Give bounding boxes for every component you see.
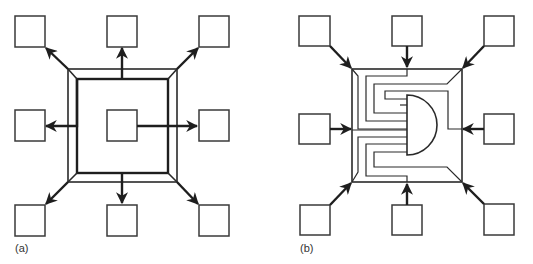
box-b-top-middle	[392, 16, 422, 46]
bevel-a-tr	[168, 69, 177, 79]
arrow-a-bottom-right	[177, 182, 198, 204]
wire-b-bottom-right	[374, 152, 462, 182]
bevel-a-bl	[68, 173, 77, 182]
box-a-top-middle	[107, 16, 137, 47]
arrow-b-bottom-left	[330, 183, 351, 205]
panel-b-label: (b)	[300, 242, 313, 254]
panel-a-label: (a)	[15, 242, 28, 254]
panel-b: (b)	[299, 16, 514, 254]
box-a-bottom-right	[199, 205, 229, 236]
box-a-top-right	[199, 16, 229, 47]
box-a-middle-left	[15, 110, 45, 141]
box-b-bottom-middle	[392, 205, 422, 235]
box-b-bottom-left	[300, 205, 330, 235]
arrow-a-top-left	[46, 48, 68, 69]
arrow-a-top-right	[177, 48, 198, 69]
wire-b-bottom-middle	[366, 144, 407, 182]
box-b-top-left	[299, 16, 330, 46]
bevel-a-tl	[68, 69, 77, 79]
box-a-bottom-middle	[107, 205, 137, 236]
and-gate	[407, 95, 437, 155]
arrow-a-bottom-left	[46, 182, 68, 204]
panel-a: (a)	[15, 16, 229, 254]
box-a-top-left	[15, 16, 45, 47]
box-a-center	[107, 110, 137, 141]
wire-b-middle-right	[385, 91, 462, 129]
bevel-a-br	[168, 173, 177, 182]
fan-out-fan-in-diagram: (a)	[0, 0, 533, 264]
box-b-middle-left	[299, 114, 330, 144]
arrow-a-middle-left	[46, 79, 77, 126]
arrow-b-top-right	[463, 46, 484, 68]
box-a-bottom-left	[15, 205, 45, 236]
arrow-b-top-left	[330, 46, 351, 68]
arrow-b-bottom-right	[463, 183, 484, 204]
box-b-bottom-right	[484, 204, 514, 235]
box-a-middle-right	[199, 110, 229, 141]
box-b-top-right	[484, 16, 514, 46]
box-b-middle-right	[484, 114, 514, 144]
